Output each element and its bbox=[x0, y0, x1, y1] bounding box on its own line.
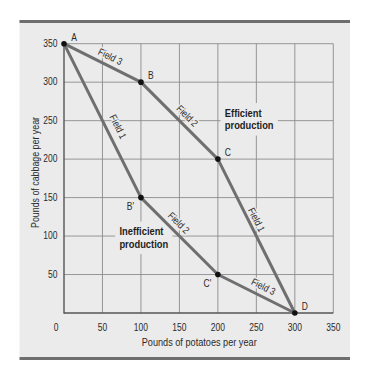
annotation-line: production bbox=[225, 120, 274, 132]
annotation-line: production bbox=[119, 238, 168, 250]
x-tick-label: 0 bbox=[54, 322, 59, 333]
y-tick-label: 150 bbox=[43, 192, 57, 203]
annotation-line: Efficient bbox=[225, 107, 262, 119]
point-label-d: D bbox=[302, 302, 308, 313]
x-tick-label: 50 bbox=[98, 322, 107, 333]
point-label-a: A bbox=[71, 32, 77, 43]
point-c-marker bbox=[215, 156, 221, 162]
y-tick-label: 300 bbox=[43, 77, 57, 88]
x-tick-label: 350 bbox=[326, 322, 340, 333]
x-tick-label: 200 bbox=[211, 322, 225, 333]
point-a-marker bbox=[61, 41, 67, 47]
point-label-c: C bbox=[225, 148, 231, 159]
point-b-marker bbox=[138, 79, 144, 85]
panel-top-border bbox=[20, 20, 351, 23]
chart-panel-background bbox=[20, 20, 351, 360]
point-label-b-prime: B' bbox=[127, 201, 134, 212]
x-axis-title: Pounds of potatoes per year bbox=[142, 336, 257, 348]
point-d-marker bbox=[292, 310, 298, 316]
panel-bottom-border bbox=[20, 357, 351, 360]
annotation-line: Inefficient bbox=[119, 226, 164, 238]
production-possibilities-chart: EfficientproductionInefficientproduction… bbox=[0, 0, 367, 384]
point-label-b: B bbox=[148, 71, 154, 82]
annotation-efficient-production: Efficientproduction bbox=[221, 103, 278, 136]
annotation-text: Inefficientproduction bbox=[119, 226, 168, 251]
point-c-prime-marker bbox=[215, 272, 221, 278]
y-tick-label: 350 bbox=[43, 38, 57, 49]
production-possibilities-figure: EfficientproductionInefficientproduction… bbox=[0, 0, 367, 384]
point-b-prime-marker bbox=[138, 195, 144, 201]
x-tick-label: 250 bbox=[249, 322, 263, 333]
y-axis-title: Pounds of cabbage per year bbox=[29, 117, 41, 228]
point-label-c-prime: C' bbox=[204, 278, 212, 289]
x-tick-label: 300 bbox=[288, 322, 302, 333]
y-tick-label: 100 bbox=[43, 231, 57, 242]
y-tick-label: 250 bbox=[43, 115, 57, 126]
x-tick-label: 150 bbox=[172, 322, 186, 333]
y-tick-label: 50 bbox=[48, 269, 57, 280]
x-tick-label: 100 bbox=[134, 322, 148, 333]
y-tick-label: 200 bbox=[43, 154, 57, 165]
annotation-inefficient-production: Inefficientproduction bbox=[115, 222, 172, 255]
